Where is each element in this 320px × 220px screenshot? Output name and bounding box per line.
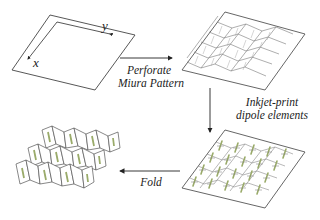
axis-y-label: y	[102, 18, 108, 34]
flat-sheet	[12, 15, 135, 90]
axis-x-label: x	[33, 55, 39, 71]
perforate-label: Perforate Miura Pattern	[118, 64, 180, 90]
perforate-label-line1: Perforate	[118, 64, 180, 77]
printed-sheet	[182, 130, 305, 208]
folded-structure	[16, 126, 120, 188]
perforate-label-line2: Miura Pattern	[118, 77, 180, 90]
fold-label: Fold	[136, 176, 166, 189]
inkjet-label-line2: dipole elements	[232, 109, 312, 122]
inkjet-label-line1: Inkjet-print	[232, 96, 312, 109]
inkjet-label: Inkjet-print dipole elements	[232, 96, 312, 122]
perforated-sheet	[182, 12, 305, 90]
